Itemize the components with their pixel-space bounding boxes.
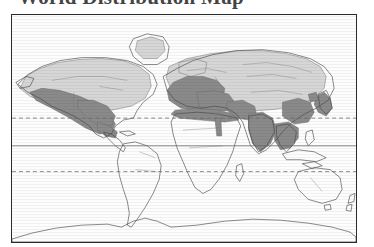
figure-caption: World Distribution Map bbox=[18, 0, 244, 10]
world-map: .land { fill:#ffffff; stroke:#555; strok… bbox=[12, 15, 356, 242]
figure-caption-strip: World Distribution Map bbox=[0, 0, 374, 13]
map-figure: World Distribution Map .land { fill:#fff… bbox=[0, 0, 374, 247]
map-frame: .land { fill:#ffffff; stroke:#555; strok… bbox=[11, 14, 357, 243]
ocean-background bbox=[12, 15, 356, 242]
